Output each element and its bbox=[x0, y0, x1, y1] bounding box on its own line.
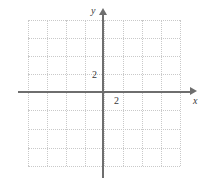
x-axis-line bbox=[18, 91, 192, 93]
gridline-vertical bbox=[47, 20, 48, 166]
grid-area bbox=[28, 20, 180, 166]
gridline-vertical bbox=[66, 20, 67, 166]
gridline-horizontal bbox=[28, 38, 180, 39]
gridline-horizontal bbox=[28, 20, 180, 21]
gridline-horizontal bbox=[28, 74, 180, 75]
x-axis-arrow-icon bbox=[190, 87, 197, 95]
gridline-vertical bbox=[104, 20, 105, 166]
gridline-horizontal bbox=[28, 110, 180, 111]
coordinate-plane-figure: x y 2 2 bbox=[0, 0, 207, 189]
gridline-horizontal bbox=[28, 166, 180, 167]
gridline-horizontal bbox=[28, 129, 180, 130]
gridline-vertical bbox=[123, 20, 124, 166]
y-axis-arrow-icon bbox=[99, 8, 107, 15]
y-axis-line bbox=[102, 14, 104, 178]
gridline-horizontal bbox=[28, 148, 180, 149]
gridline-horizontal bbox=[28, 56, 180, 57]
gridline-vertical bbox=[180, 20, 181, 166]
y-axis-label: y bbox=[91, 6, 95, 16]
gridline-vertical bbox=[28, 20, 29, 166]
y-axis-tick-label-2: 2 bbox=[92, 70, 97, 80]
gridline-vertical bbox=[142, 20, 143, 166]
gridline-vertical bbox=[85, 20, 86, 166]
x-axis-tick-label-2: 2 bbox=[114, 96, 119, 106]
x-axis-label: x bbox=[193, 96, 197, 106]
gridline-vertical bbox=[161, 20, 162, 166]
